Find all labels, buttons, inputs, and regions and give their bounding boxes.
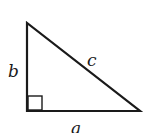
right-triangle-diagram: b c a (0, 0, 151, 133)
label-c: c (87, 50, 97, 70)
label-a: a (71, 118, 81, 133)
label-b: b (8, 61, 19, 81)
triangle (27, 23, 140, 111)
right-angle-marker (28, 96, 42, 110)
